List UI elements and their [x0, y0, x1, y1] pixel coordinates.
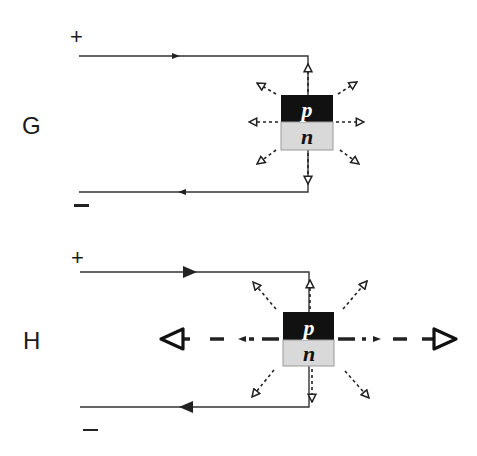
panel-g: G + p n	[22, 24, 364, 207]
pn-junction-g: p n	[281, 95, 333, 150]
positive-terminal-h: +	[71, 245, 84, 270]
n-layer-label: n	[303, 341, 315, 366]
beam-arrow-icon	[373, 336, 381, 342]
circuit-wire-g	[79, 53, 308, 195]
current-arrow-icon	[172, 53, 180, 59]
negative-terminal-g	[74, 204, 89, 207]
beam-left-arrowhead-icon	[161, 329, 183, 349]
positive-terminal-g: +	[70, 24, 83, 49]
p-layer-label: p	[302, 315, 315, 340]
led-laser-diagram: G + p n H +	[0, 0, 477, 456]
n-layer-label: n	[301, 124, 313, 149]
current-arrow-icon	[178, 189, 186, 195]
current-arrow-icon	[183, 266, 197, 278]
negative-terminal-h	[83, 429, 98, 431]
panel-label-h: H	[23, 327, 40, 354]
panel-h: H +	[23, 245, 456, 431]
current-arrow-icon	[179, 401, 193, 413]
beam-right-arrowhead-icon	[434, 329, 456, 349]
panel-label-g: G	[22, 112, 41, 139]
pn-junction-h: p n	[283, 312, 334, 366]
beam-arrow-icon	[238, 336, 246, 342]
p-layer-label: p	[300, 97, 313, 122]
